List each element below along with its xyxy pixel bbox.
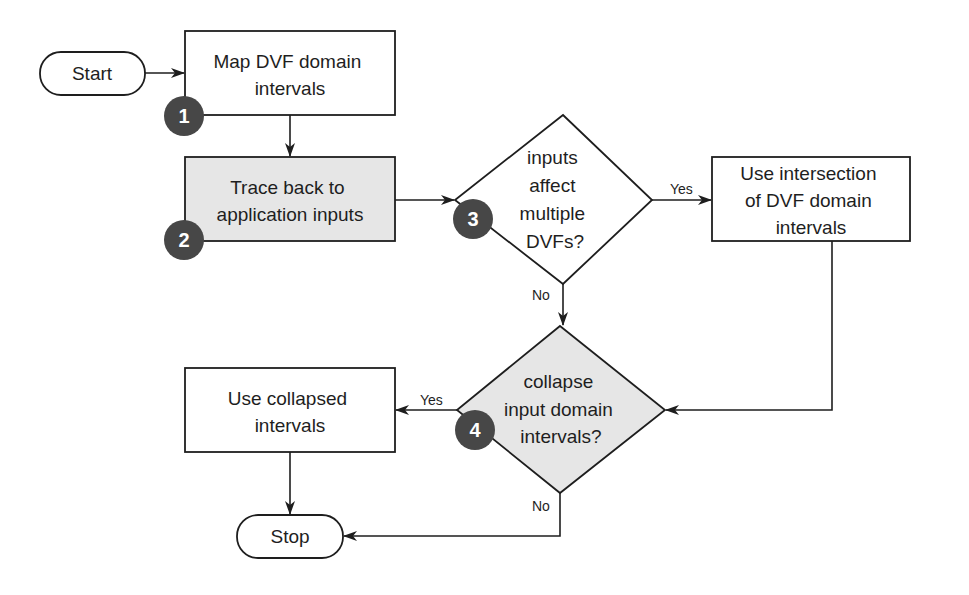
decision-collapse-intervals: collapse input domain intervals? (457, 326, 665, 493)
decision4-line-2: input domain (504, 399, 613, 420)
decision3-line-3: multiple (520, 203, 585, 224)
stop-label: Stop (270, 526, 309, 547)
edge-intersection-to-decision4 (666, 241, 832, 410)
step-map-intervals: Map DVF domain intervals (185, 31, 395, 115)
stop-terminal: Stop (237, 515, 343, 558)
start-label: Start (72, 63, 113, 84)
badge-2: 2 (164, 220, 204, 260)
decision4-line-1: collapse (524, 371, 594, 392)
badge-1-number: 1 (178, 105, 189, 127)
decision3-line-4: DVFs? (526, 231, 584, 252)
decision3-line-2: affect (529, 175, 576, 196)
badge-2-number: 2 (178, 229, 189, 251)
map-intervals-line-2: intervals (255, 78, 326, 99)
collapsed-line-1: Use collapsed (228, 388, 347, 409)
badge-4-number: 4 (469, 419, 481, 441)
edge-label-d4-yes: Yes (420, 392, 443, 408)
step-trace-back: Trace back to application inputs (185, 157, 395, 241)
badge-1: 1 (164, 96, 204, 136)
edge-decision4-no (344, 493, 560, 536)
flowchart: Yes No Yes No Start Map DVF domain inter… (0, 0, 969, 595)
intersection-line-3: intervals (776, 217, 847, 238)
trace-back-line-1: Trace back to (230, 177, 344, 198)
edge-label-d3-yes: Yes (670, 181, 693, 197)
start-terminal: Start (40, 52, 145, 95)
decision3-line-1: inputs (527, 147, 578, 168)
edge-label-d3-no: No (532, 287, 550, 303)
decision4-line-3: intervals? (520, 426, 601, 447)
edge-label-d4-no: No (532, 498, 550, 514)
collapsed-line-2: intervals (255, 415, 326, 436)
step-use-collapsed: Use collapsed intervals (185, 368, 395, 452)
intersection-line-2: of DVF domain (745, 190, 872, 211)
decision-multiple-dvfs: inputs affect multiple DVFs? (455, 115, 652, 284)
intersection-line-1: Use intersection (740, 163, 876, 184)
step-use-intersection: Use intersection of DVF domain intervals (712, 157, 910, 241)
badge-3-number: 3 (467, 208, 478, 230)
badge-4: 4 (455, 410, 495, 450)
map-intervals-line-1: Map DVF domain (213, 51, 361, 72)
edges (145, 73, 832, 536)
badge-3: 3 (453, 199, 493, 239)
trace-back-line-2: application inputs (217, 204, 364, 225)
